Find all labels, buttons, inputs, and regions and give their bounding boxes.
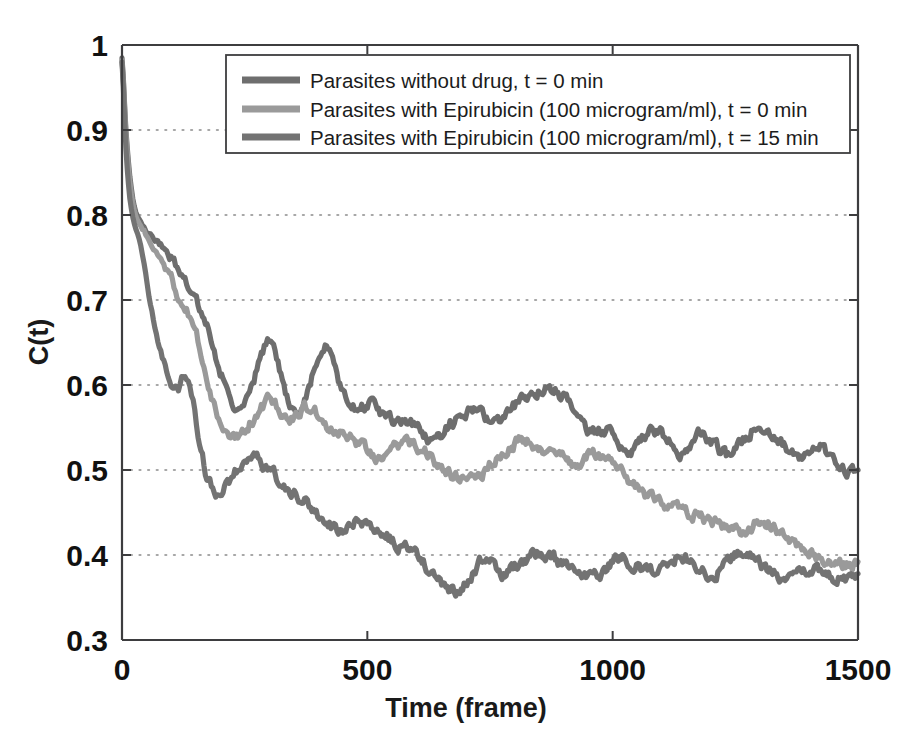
y-tick-label: 0.9 xyxy=(66,114,108,147)
y-tick-label: 0.6 xyxy=(66,369,108,402)
y-tick-label: 0.7 xyxy=(66,284,108,317)
y-tick-label: 1 xyxy=(91,29,108,62)
chart-plot: 0.30.40.50.60.70.80.91 050010001500 Time… xyxy=(0,0,924,738)
y-tick-label: 0.5 xyxy=(66,454,108,487)
legend-label-series-3: Parasites with Epirubicin (100 microgram… xyxy=(310,126,819,149)
legend-label-series-1: Parasites without drug, t = 0 min xyxy=(310,69,603,92)
y-tick-label: 0.4 xyxy=(66,539,108,572)
x-tick-label: 1000 xyxy=(579,653,646,686)
chart-legend: Parasites without drug, t = 0 min Parasi… xyxy=(226,55,850,153)
x-tick-label: 0 xyxy=(114,653,131,686)
x-tick-label: 500 xyxy=(342,653,392,686)
y-axis-title: C(t) xyxy=(24,319,54,365)
legend-label-series-2: Parasites with Epirubicin (100 microgram… xyxy=(310,98,807,121)
x-axis-title: Time (frame) xyxy=(385,693,547,723)
x-tick-label: 1500 xyxy=(825,653,892,686)
figure-canvas: 0.30.40.50.60.70.80.91 050010001500 Time… xyxy=(0,0,924,738)
y-tick-label: 0.3 xyxy=(66,624,108,657)
y-tick-label: 0.8 xyxy=(66,199,108,232)
